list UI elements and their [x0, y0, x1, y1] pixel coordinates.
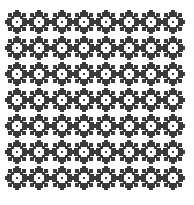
flower-icon — [27, 166, 51, 190]
flower-icon — [27, 36, 51, 60]
flower-icon — [27, 114, 51, 138]
flower-icon — [5, 36, 29, 60]
flower-icon — [161, 36, 185, 60]
flower-icon — [5, 140, 29, 164]
flower-icon — [117, 166, 141, 190]
flower-icon — [72, 140, 96, 164]
flower-icon — [94, 36, 118, 60]
flower-icon — [5, 114, 29, 138]
flower-icon — [139, 36, 163, 60]
flower-icon — [50, 166, 74, 190]
flower-icon — [117, 62, 141, 86]
flower-icon — [117, 114, 141, 138]
flower-icon — [27, 140, 51, 164]
flower-icon — [72, 114, 96, 138]
flower-icon — [94, 88, 118, 112]
flower-icon — [139, 166, 163, 190]
flower-icon — [94, 166, 118, 190]
flower-icon — [94, 114, 118, 138]
flower-icon — [117, 140, 141, 164]
flower-icon — [139, 88, 163, 112]
flower-icon — [139, 62, 163, 86]
flower-icon — [161, 114, 185, 138]
flower-icon — [50, 10, 74, 34]
flower-icon — [5, 62, 29, 86]
flower-pattern — [0, 0, 194, 205]
flower-icon — [72, 36, 96, 60]
flower-icon — [161, 166, 185, 190]
flower-icon — [139, 114, 163, 138]
flower-icon — [5, 88, 29, 112]
flower-icon — [117, 10, 141, 34]
flower-icon — [27, 10, 51, 34]
flower-icon — [94, 62, 118, 86]
flower-icon — [5, 10, 29, 34]
flower-icon — [117, 36, 141, 60]
flower-icon — [50, 88, 74, 112]
flower-icon — [50, 114, 74, 138]
flower-icon — [94, 140, 118, 164]
flower-icon — [72, 88, 96, 112]
flower-icon — [139, 140, 163, 164]
flower-icon — [161, 62, 185, 86]
flower-icon — [161, 140, 185, 164]
flower-icon — [5, 166, 29, 190]
flower-icon — [139, 10, 163, 34]
flower-icon — [161, 88, 185, 112]
flower-icon — [117, 88, 141, 112]
flower-icon — [50, 36, 74, 60]
flower-icon — [27, 88, 51, 112]
flower-icon — [50, 140, 74, 164]
flower-icon — [27, 62, 51, 86]
flower-icon — [72, 62, 96, 86]
flower-icon — [50, 62, 74, 86]
flower-icon — [72, 10, 96, 34]
flower-icon — [94, 10, 118, 34]
flower-icon — [72, 166, 96, 190]
flower-icon — [161, 10, 185, 34]
